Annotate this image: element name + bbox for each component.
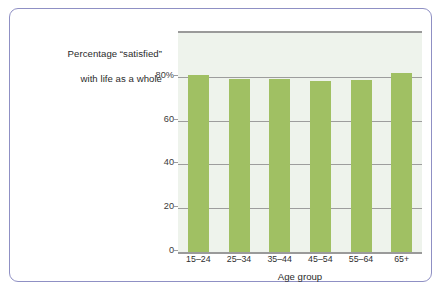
y-tick-mark-40	[174, 162, 178, 163]
x-tick-label-25–34: 25–34	[227, 254, 251, 264]
y-tick-mark-20	[174, 206, 178, 207]
x-tick-label-45–54: 45–54	[308, 254, 332, 264]
bars-group	[178, 33, 422, 252]
bar-55–64	[351, 80, 372, 252]
plot-area	[178, 31, 422, 252]
x-axis-title: Age group	[178, 271, 422, 282]
bar-15–24	[188, 75, 209, 252]
y-tick-mark-80	[174, 75, 178, 76]
y-tick-label-80: 80%	[138, 70, 174, 80]
x-tick-label-15–24: 15–24	[186, 254, 210, 264]
y-axis-tick-labels: 020406080%	[134, 31, 174, 250]
bar-35–44	[269, 79, 290, 252]
x-tick-label-55–64: 55–64	[349, 254, 373, 264]
y-tick-label-40: 40	[138, 157, 174, 167]
x-tick-label-35–44: 35–44	[267, 254, 291, 264]
y-tick-label-60: 60	[138, 114, 174, 124]
figure-frame: Percentage “satisfied” with life as a wh…	[9, 8, 432, 282]
y-tick-mark-60	[174, 119, 178, 120]
bar-45–54	[310, 81, 331, 252]
x-tick-label-65+: 65+	[394, 254, 409, 264]
y-tick-mark-0	[174, 250, 178, 251]
x-axis-tick-labels: 15–2425–3435–4445–5455–6465+	[178, 254, 422, 268]
y-tick-label-0: 0	[138, 245, 174, 255]
y-tick-label-20: 20	[138, 201, 174, 211]
bar-65+	[391, 73, 412, 252]
bar-25–34	[229, 79, 250, 252]
